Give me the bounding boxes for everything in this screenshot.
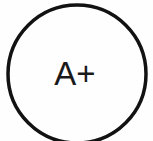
icon-canvas: A+: [0, 0, 153, 141]
badge-label: A+: [54, 55, 95, 92]
a-plus-grade-badge[interactable]: A+: [0, 0, 153, 141]
